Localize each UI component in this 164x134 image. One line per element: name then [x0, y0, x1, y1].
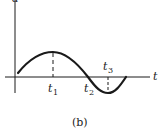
t1-label: t 1 [48, 82, 58, 97]
waveform-diagram: a t t 1 t 2 t 3 (b) [0, 0, 164, 134]
svg-text:3: 3 [108, 66, 113, 75]
svg-text:2: 2 [89, 88, 94, 97]
svg-text:1: 1 [53, 88, 58, 97]
t3-label: t 3 [103, 60, 113, 75]
x-axis-label: t [153, 70, 158, 83]
y-axis-label: a [12, 0, 19, 5]
figure-caption: (b) [72, 116, 88, 129]
